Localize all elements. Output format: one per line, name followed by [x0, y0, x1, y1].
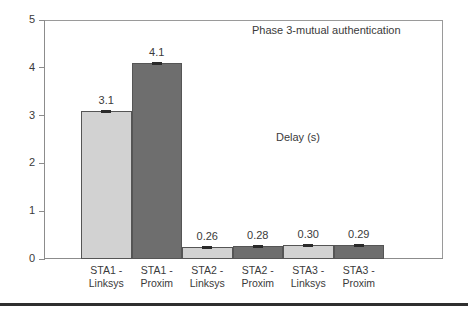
bar [132, 63, 183, 259]
category-label-line1: STA2 - [191, 264, 223, 276]
category-label-line1: STA2 - [242, 264, 274, 276]
error-bar-cap [202, 246, 212, 249]
error-bar-cap [152, 62, 162, 65]
x-axis-category-label: STA3 -Proxim [328, 264, 391, 290]
bar [81, 111, 132, 259]
bar [283, 245, 334, 259]
bottom-divider-rule [0, 303, 468, 306]
y-axis-tick-label: 5 [6, 14, 35, 25]
category-label-line1: STA3 - [292, 264, 324, 276]
annotation-phase-title: Phase 3-mutual authentication [252, 24, 401, 37]
category-label-line1: STA1 - [141, 264, 173, 276]
category-label-line2: Proxim [328, 277, 391, 290]
error-bar-cap [303, 244, 313, 247]
error-bar-cap [354, 244, 364, 247]
y-axis-tick-label: 1 [6, 205, 35, 216]
y-axis-tick-label: 3 [6, 110, 35, 121]
category-label-line1: STA3 - [343, 264, 375, 276]
error-bar-cap [101, 110, 111, 113]
bar-chart-figure: 012345 3.14.10.260.280.300.29 STA1 -Link… [0, 0, 468, 314]
annotation-delay-label: Delay (s) [276, 131, 320, 144]
bars-layer [44, 20, 443, 259]
y-axis-tick-label: 4 [6, 62, 35, 73]
error-bar-cap [253, 245, 263, 248]
bar-value-label: 0.29 [330, 229, 389, 240]
bar-value-label: 4.1 [128, 47, 187, 58]
y-axis-tick-label: 0 [6, 253, 35, 264]
bar [233, 246, 284, 259]
category-label-line1: STA1 - [90, 264, 122, 276]
bar [334, 245, 385, 259]
y-axis-tick-label: 2 [6, 157, 35, 168]
bar-value-label: 3.1 [77, 95, 136, 106]
